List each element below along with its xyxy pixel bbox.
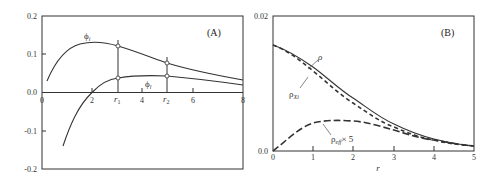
panel-a-ytick: 0.0: [27, 88, 37, 97]
panel-b-xtick: 3: [392, 153, 396, 162]
panel-b-xtick: 0: [271, 153, 275, 162]
rho-eff-curve: [273, 120, 474, 151]
phi-l-label: ϕl: [145, 79, 152, 90]
panel-a-ytick: -0.2: [24, 165, 37, 174]
panel-b-ytick: 0.0: [258, 147, 268, 156]
rho-label: ρ: [317, 52, 323, 62]
panel-b-xtick: 1: [311, 153, 315, 162]
phi-l-curve: [63, 76, 243, 146]
rho-eff-label: ρeff× 5: [331, 134, 354, 145]
panel-b-label: (B): [441, 27, 454, 39]
phi-i-label: ϕi: [84, 31, 91, 42]
panel-a-ytick: 0.2: [27, 12, 37, 21]
panel-a-xtick: 4: [140, 96, 144, 105]
r1-label: r1: [114, 94, 121, 105]
panel-a-ytick: 0.1: [27, 50, 37, 59]
panel-a-xtick: 6: [191, 96, 195, 105]
rho-eff-leader: [323, 124, 331, 135]
panel-a-x-ticks: [92, 88, 193, 93]
panel-b-ytick: 0.02: [254, 12, 268, 21]
rho-xi-leader: [300, 77, 308, 88]
panel-b-x-ticks: [313, 146, 434, 151]
panel-a-ytick: -0.1: [24, 127, 37, 136]
panel-b-xtick: 2: [351, 153, 355, 162]
panel-a: 0.2 0.1 0.0 -0.1 -0.2 0 2 4 6 8 r1 r2: [24, 12, 245, 174]
rho-curve: [273, 45, 474, 146]
figure: 0.2 0.1 0.0 -0.1 -0.2 0 2 4 6 8 r1 r2: [0, 0, 498, 180]
r2-label: r2: [163, 94, 170, 105]
panel-a-xtick: 0: [40, 96, 44, 105]
panel-b-xtick: 4: [432, 153, 436, 162]
panel-b-xtick: 5: [472, 153, 476, 162]
intersection-markers: [116, 44, 169, 80]
panel-b-xlabel: r: [376, 163, 380, 173]
panel-a-xtick: 8: [241, 96, 245, 105]
panel-a-label: (A): [207, 27, 221, 39]
panel-b: 0.02 0.0 0 1 2 3 4 5 r ρ ρXi ρeff× 5 (B): [254, 12, 476, 173]
rho-xi-label: ρXi: [289, 89, 299, 100]
panel-a-xtick: 2: [90, 96, 94, 105]
